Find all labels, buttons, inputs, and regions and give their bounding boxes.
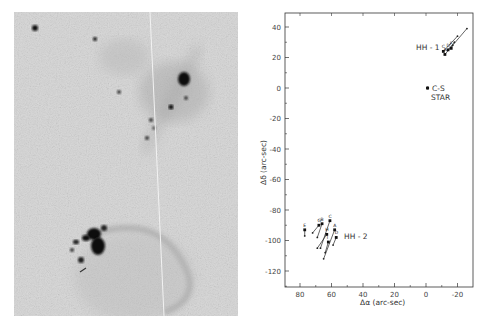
y-tick-label: 20 [272,54,281,62]
vector-tip [304,235,306,237]
knot-marker [303,228,306,231]
knot-marker [327,241,330,244]
star-marker [426,86,429,89]
chart-svg: 40200-20-40-60-80-100-120 806040200-20 A… [250,0,492,324]
knot-marker [447,48,450,51]
knot-marker [444,53,447,56]
knot-marker [321,222,324,225]
cs-star-label-line1: C-S [432,84,445,93]
hh1-label: HH - 1 [416,43,440,52]
x-tick-label: -20 [452,291,463,299]
vector-tip [312,232,314,234]
hh2-label: HH - 2 [344,232,368,241]
knot-label: D [335,230,339,235]
vector-tip [320,247,322,249]
y-axis-label: Δδ (arc-sec) [259,140,268,185]
astronomical-photograph [14,12,238,316]
x-tick-label: 0 [424,291,428,299]
proper-motion-vectors: ACDFEGBCHAID [303,28,468,260]
knot-label: A [333,223,337,228]
x-tick-label: 60 [327,291,336,299]
knot-marker [335,236,338,239]
x-axis: 806040200-20 [296,13,464,299]
x-tick-label: 80 [296,291,305,299]
vector-tip [457,35,459,37]
vector-tip [316,237,318,239]
knot-marker [450,47,453,50]
cs-star-label-line2: STAR [431,93,450,102]
y-tick-label: -120 [265,268,281,276]
motion-vector [317,234,326,248]
knot-label: E [303,223,306,228]
knot-marker [318,224,321,227]
knot-label: B [321,217,324,222]
y-tick-label: -100 [265,237,281,245]
knot-marker [329,219,332,222]
y-tick-label: -60 [270,176,281,184]
photo-render [14,12,238,316]
vector-tip [466,28,468,30]
vector-tip [332,244,334,246]
x-axis-label: Δα (arc-sec) [360,298,405,307]
y-tick-label: -40 [270,146,281,154]
y-tick-label: -80 [270,207,281,215]
proper-motion-chart: 40200-20-40-60-80-100-120 806040200-20 A… [250,0,492,324]
knot-label: C [442,44,445,49]
knot-label: C [328,214,331,219]
vector-tip [323,258,325,260]
y-axis: 40200-20-40-60-80-100-120 [265,24,289,287]
vector-tip [316,247,318,249]
knot-label: I [327,235,328,240]
knot-label: H [325,227,328,232]
y-tick-label: -20 [270,115,281,123]
knot-marker [442,50,445,53]
vector-tip [453,41,455,43]
y-tick-label: 0 [277,85,281,93]
knot-label: F [450,41,453,46]
y-tick-label: 40 [272,24,281,32]
vector-tip [324,252,326,254]
